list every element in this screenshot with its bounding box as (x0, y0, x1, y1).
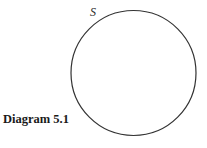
diagram-caption: Diagram 5.1 (3, 112, 69, 127)
set-s-label: S (90, 5, 96, 19)
set-s-circle (71, 11, 196, 136)
